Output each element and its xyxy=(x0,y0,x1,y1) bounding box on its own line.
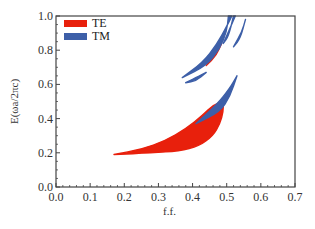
x-tick-label: 0.3 xyxy=(151,190,166,204)
legend: TE TM xyxy=(64,16,110,43)
legend-label-te: TE xyxy=(92,16,107,30)
legend-label-tm: TM xyxy=(92,29,110,43)
y-tick-label: 0.2 xyxy=(38,146,53,160)
x-tick-label: 0.2 xyxy=(117,190,132,204)
band-regions xyxy=(114,16,246,155)
x-tick-label: 0.1 xyxy=(83,190,98,204)
x-tick-label: 0.7 xyxy=(288,190,303,204)
x-tick-label: 0.6 xyxy=(253,190,268,204)
x-axis-ticks: 0.00.10.20.30.40.50.60.7 xyxy=(49,183,303,204)
y-tick-label: 0.6 xyxy=(38,77,53,91)
x-axis-title: f.f. xyxy=(163,205,176,217)
y-axis-title: E(ωa/2πc) xyxy=(8,79,21,124)
te-band-region xyxy=(114,102,223,155)
x-tick-label: 0.4 xyxy=(185,190,200,204)
y-tick-label: 1.0 xyxy=(38,9,53,23)
tm-band-region xyxy=(234,19,246,46)
band-gap-chart: 0.00.10.20.30.40.50.60.7 0.00.20.40.60.8… xyxy=(0,0,315,229)
y-tick-label: 0.0 xyxy=(38,180,53,194)
legend-swatch-tm xyxy=(64,33,87,40)
tm-band-region xyxy=(182,16,232,78)
x-tick-label: 0.5 xyxy=(219,190,234,204)
legend-swatch-te xyxy=(64,20,87,27)
y-tick-label: 0.8 xyxy=(38,43,53,57)
y-tick-label: 0.4 xyxy=(38,112,53,126)
y-axis-ticks: 0.00.20.40.60.81.0 xyxy=(38,9,60,194)
